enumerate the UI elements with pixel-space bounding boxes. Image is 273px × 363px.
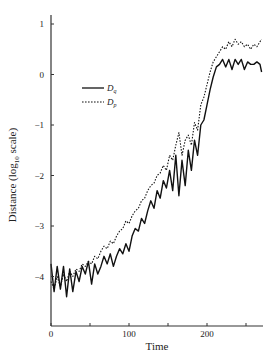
legend-item-dq: Dq — [82, 83, 117, 94]
y-axis-title-suffix: scale) — [6, 127, 19, 156]
axes: 10−1−2−3−4 0100200 — [34, 15, 263, 339]
x-tick-label: 100 — [122, 329, 136, 339]
legend: Dq Dp — [82, 83, 117, 108]
legend-label-dq: Dq — [106, 83, 117, 94]
series-layer — [51, 39, 262, 297]
series-line-dp — [51, 39, 262, 289]
y-axis-title-prefix: Distance (log — [6, 163, 19, 222]
line-chart: 10−1−2−3−4 0100200 Time Distance (log10 … — [0, 0, 273, 363]
y-tick-label: −3 — [34, 221, 44, 231]
series-line-dq — [51, 59, 262, 296]
legend-item-dp: Dp — [82, 97, 117, 108]
legend-label-dp: Dp — [106, 97, 117, 108]
y-tick-label: −2 — [34, 171, 44, 181]
y-tick-label: −4 — [34, 272, 44, 282]
x-axis-title: Time — [146, 340, 169, 352]
y-tick-label: −1 — [34, 120, 44, 130]
y-tick-label: 0 — [40, 70, 45, 80]
y-tick-label: 1 — [40, 19, 45, 29]
x-tick-label: 0 — [49, 329, 54, 339]
x-tick-label: 200 — [200, 329, 214, 339]
y-axis-title: Distance (log10 scale) — [6, 127, 21, 222]
